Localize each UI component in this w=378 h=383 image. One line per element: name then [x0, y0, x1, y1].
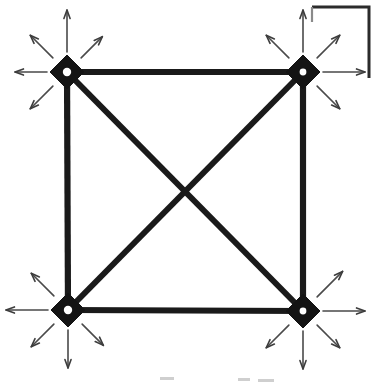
scan-smudge-1 — [238, 378, 250, 381]
edge-bottom — [68, 310, 303, 311]
graph-diagram-svg — [0, 0, 378, 383]
bottom-right-node-hole — [300, 308, 307, 315]
scan-smudge-2 — [258, 379, 274, 382]
top-left-node-hole — [63, 68, 71, 76]
edge-left — [67, 72, 68, 310]
top-right-node-hole — [300, 69, 307, 76]
figure-container — [0, 0, 378, 383]
scan-smudge-0 — [160, 377, 174, 380]
bottom-left-node-hole — [64, 306, 72, 314]
